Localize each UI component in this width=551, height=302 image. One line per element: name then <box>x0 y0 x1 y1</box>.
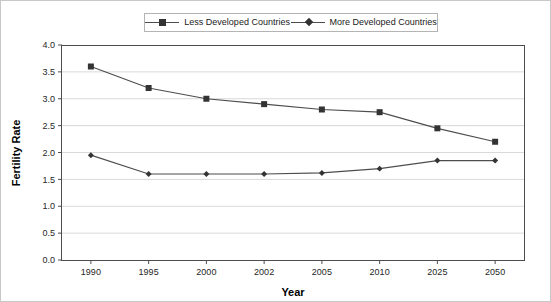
x-tick-label: 2025 <box>427 267 447 277</box>
x-tick-label: 2002 <box>254 267 274 277</box>
data-point-marker <box>377 166 383 172</box>
y-tick-label: 3.5 <box>42 67 55 77</box>
y-tick-label: 2.5 <box>42 121 55 131</box>
data-point-marker <box>203 96 209 102</box>
series-line-1 <box>91 155 495 174</box>
y-tick-label: 1.0 <box>42 201 55 211</box>
data-point-marker <box>261 101 267 107</box>
y-axis-title: Fertility Rate <box>10 120 22 187</box>
chart-svg: 0.00.51.01.52.02.53.03.54.0 199019952000… <box>1 1 551 302</box>
data-point-marker <box>88 64 94 70</box>
data-point-marker <box>492 139 498 145</box>
y-axis-ticks: 0.00.51.01.52.02.53.03.54.0 <box>42 40 62 265</box>
data-point-marker <box>261 171 267 177</box>
y-tick-label: 2.0 <box>42 148 55 158</box>
data-series-group <box>88 64 498 177</box>
data-point-marker <box>203 171 209 177</box>
data-point-marker <box>492 158 498 164</box>
x-axis-ticks: 19901995200020022005201020252050 <box>81 260 505 277</box>
y-tick-label: 1.5 <box>42 175 55 185</box>
data-point-marker <box>319 107 325 113</box>
chart-figure: Less Developed Countries More Developed … <box>0 0 551 302</box>
x-tick-label: 2050 <box>485 267 505 277</box>
data-point-marker <box>377 109 383 115</box>
data-point-marker <box>319 170 325 176</box>
data-point-marker <box>434 125 440 131</box>
x-tick-label: 2000 <box>196 267 216 277</box>
x-tick-label: 2005 <box>312 267 332 277</box>
plot-area: 0.00.51.01.52.02.53.03.54.0 199019952000… <box>1 1 551 302</box>
data-point-marker <box>146 171 152 177</box>
x-tick-label: 1995 <box>139 267 159 277</box>
y-tick-label: 3.0 <box>42 94 55 104</box>
y-tick-label: 0.5 <box>42 228 55 238</box>
data-point-marker <box>88 152 94 158</box>
x-tick-label: 1990 <box>81 267 101 277</box>
data-point-marker <box>434 158 440 164</box>
x-axis-title: Year <box>281 286 305 298</box>
data-point-marker <box>146 85 152 91</box>
y-tick-label: 0.0 <box>42 255 55 265</box>
gridlines <box>62 72 524 233</box>
x-tick-label: 2010 <box>370 267 390 277</box>
y-tick-label: 4.0 <box>42 40 55 50</box>
